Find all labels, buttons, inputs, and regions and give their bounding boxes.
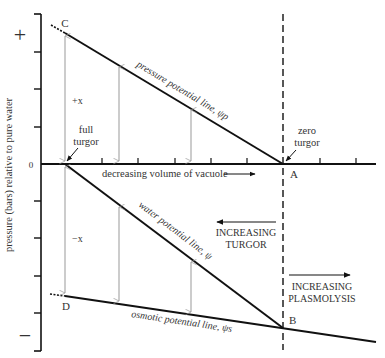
minus-label: − bbox=[19, 323, 31, 348]
point-b-label: B bbox=[289, 314, 296, 326]
pressure-potential-label: pressure potential line, ψp bbox=[134, 58, 231, 122]
zero-label: 0 bbox=[29, 160, 34, 170]
point-c-label: C bbox=[61, 17, 68, 29]
water-potential-diagram: + − 0 pressure (bars) relative to pure w… bbox=[0, 0, 385, 358]
water-potential-label: water potential line, ψ bbox=[137, 199, 216, 262]
x-axis bbox=[41, 158, 376, 164]
plus-label: + bbox=[14, 22, 26, 47]
increasing-plasmolysis-label-2: PLASMOLYSIS bbox=[288, 293, 355, 304]
osmotic-potential-label: osmotic potential line, ψs bbox=[131, 308, 233, 334]
y-axis-label: pressure (bars) relative to pure water bbox=[3, 97, 15, 252]
zero-turgor-label-2: turgor bbox=[294, 137, 320, 148]
increasing-plasmolysis-label-1: INCREASING bbox=[292, 281, 353, 292]
increasing-turgor-label-2: TURGOR bbox=[225, 239, 266, 250]
full-turgor-label-1: full bbox=[79, 124, 94, 135]
plus-x-label: +x bbox=[72, 95, 83, 106]
decreasing-volume-label: decreasing volume of vacuole bbox=[102, 168, 228, 179]
full-turgor-label-2: turgor bbox=[73, 136, 99, 147]
minus-x-label: −x bbox=[72, 233, 83, 244]
zero-turgor-label-1: zero bbox=[298, 125, 316, 136]
y-axis bbox=[34, 14, 41, 351]
zero-turgor-pointer bbox=[286, 150, 296, 161]
increasing-turgor-label-1: INCREASING bbox=[216, 227, 277, 238]
full-turgor-pointer bbox=[67, 148, 78, 161]
point-d-label: D bbox=[62, 300, 70, 312]
point-a-label: A bbox=[290, 168, 298, 180]
